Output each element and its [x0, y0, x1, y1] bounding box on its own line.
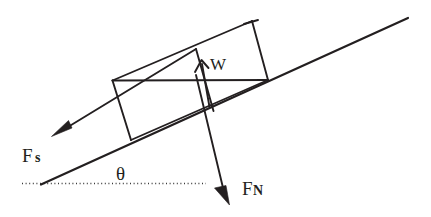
- incline-angle-label: θ: [116, 163, 125, 184]
- physics-diagram-canvas: F s F N W θ: [0, 0, 431, 217]
- normal-force-label: F: [242, 178, 253, 199]
- normal-force-shaft: [196, 75, 224, 192]
- inclined-plane-surface: [41, 18, 408, 185]
- inclined-plane-free-body-diagram: F s F N W θ: [0, 0, 431, 217]
- block-edge-upper-right: [252, 21, 268, 80]
- normal-force-arrowhead: [215, 186, 230, 206]
- friction-force-arrowhead: [52, 121, 73, 137]
- block-inner-edge-fold: [113, 80, 269, 81]
- block-on-incline: [113, 20, 269, 140]
- weight-shaft: [202, 64, 210, 107]
- block-edge-top: [113, 21, 253, 81]
- normal-force-vector: [196, 75, 230, 205]
- normal-force-subscript: N: [253, 183, 263, 198]
- friction-force-shaft: [63, 49, 196, 130]
- weight-label: W: [210, 55, 227, 74]
- friction-force-subscript: s: [35, 150, 41, 165]
- friction-force-label: F: [22, 145, 33, 166]
